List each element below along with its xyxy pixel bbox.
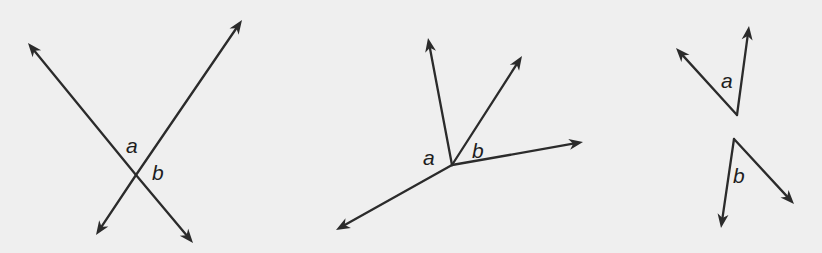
angle-label-a-fig3: a: [721, 69, 733, 92]
angle-label-b-fig2: b: [472, 139, 484, 162]
line2-ray-down-left-line: [102, 175, 136, 227]
angle-label-b-fig1: b: [152, 161, 164, 184]
ray-right-line: [452, 144, 573, 165]
line2-ray-down-left-arrowhead-icon: [96, 220, 108, 235]
angle-label-a-fig1: a: [126, 134, 138, 157]
figure-intersecting-lines: [28, 20, 242, 243]
figure-rays-from-point: [336, 38, 583, 230]
figure-separate-angles: [676, 26, 794, 228]
line1-ray-down-right-line: [136, 175, 187, 235]
line2-ray-up-right-line: [136, 28, 236, 175]
ray-up-right-arrowhead-icon: [510, 56, 522, 71]
angle-label-a-fig2: a: [423, 146, 435, 169]
diagram-canvas: a b a b a b: [0, 0, 822, 253]
line2-ray-up-right-arrowhead-icon: [230, 20, 242, 35]
angle-a-ray-up-line: [737, 36, 748, 115]
angle-label-b-fig3: b: [733, 164, 745, 187]
ray-down-left-line: [345, 165, 452, 225]
line1-ray-up-left-line: [34, 51, 136, 175]
ray-up-right-line: [452, 64, 517, 165]
